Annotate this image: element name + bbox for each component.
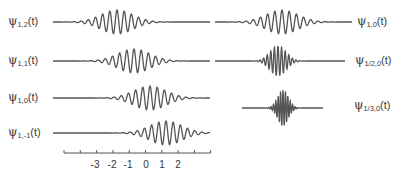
wavelet-left-0 [53, 10, 210, 34]
label-psi-1-1: ψ1,1(t) [8, 54, 38, 70]
time-axis [64, 150, 211, 153]
wavelet-right-2 [242, 90, 323, 125]
tick-label-0: 0 [143, 159, 149, 170]
wavelet-plot [0, 0, 411, 181]
label-psi-half-0: ψ1/2,0(t) [355, 54, 392, 70]
label-psi-1-2: ψ1,2(t) [8, 15, 38, 31]
label-psi-third-0: ψ1/3,0(t) [354, 99, 391, 115]
tick-label-1: 1 [159, 159, 165, 170]
tick-label-2: 2 [175, 159, 181, 170]
tick-label-minus2: -2 [108, 159, 117, 170]
label-psi-1-minus1: ψ1,-1(t) [8, 126, 41, 142]
wavelet-right-0 [215, 10, 352, 34]
wavelet-left-3 [53, 121, 210, 145]
label-psi-1-0-left: ψ1,0(t) [8, 91, 38, 107]
wavelet-left-1 [53, 49, 210, 73]
wavelet-left-2 [53, 86, 210, 110]
tick-label-minus3: -3 [91, 159, 100, 170]
wavelet-figure: ψ1,2(t) ψ1,1(t) ψ1,0(t) ψ1,-1(t) ψ1,0(t)… [0, 0, 411, 181]
wavelet-curves [53, 10, 352, 145]
tick-label-minus1: -1 [124, 159, 133, 170]
wavelet-right-1 [215, 46, 345, 76]
label-psi-1-0-right: ψ1,0(t) [357, 15, 387, 31]
